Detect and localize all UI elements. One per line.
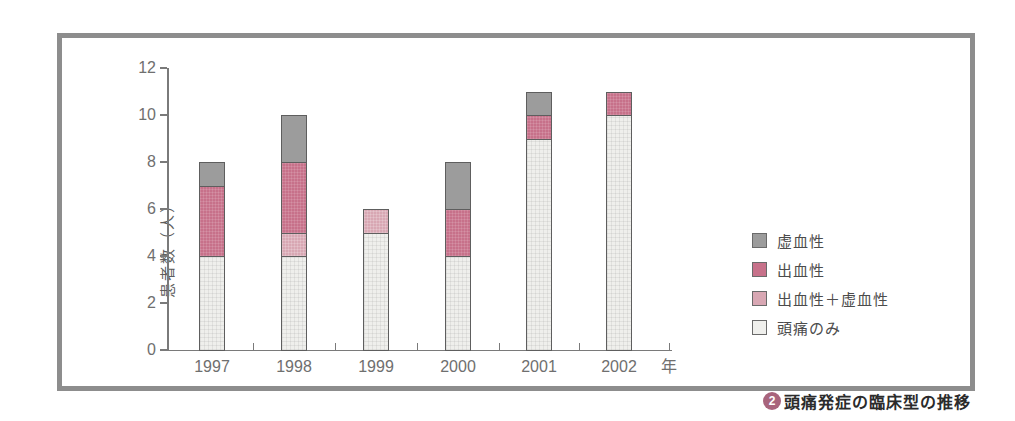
bar-1999-segment-hemo_plus_ische [363, 209, 389, 234]
legend-entry-hemorrhagic: 出血性 [752, 260, 889, 279]
figure-frame: 患者数（人） 虚血性出血性出血性＋虚血性頭痛のみ 2 頭痛発症の臨床型の推移 0… [57, 33, 975, 391]
caption-text: 頭痛発症の臨床型の推移 [784, 389, 971, 413]
bar-2000-segment-ischemic [445, 162, 471, 210]
x-axis-line [167, 350, 672, 352]
y-tick-label-10: 10 [112, 106, 156, 124]
y-tick-2 [160, 302, 167, 303]
y-tick-0 [160, 349, 167, 350]
x-minor-tick-end [669, 343, 670, 350]
y-tick-label-0: 0 [112, 341, 156, 359]
y-tick-label-8: 8 [112, 153, 156, 171]
y-tick-label-6: 6 [112, 200, 156, 218]
bar-2000-segment-headache_only [445, 256, 471, 351]
legend-label-hemorrhagic: 出血性 [777, 259, 825, 280]
caption-number-badge: 2 [763, 392, 781, 410]
legend-label-ischemic: 虚血性 [777, 230, 825, 251]
legend-label-headache_only: 頭痛のみ [777, 317, 841, 338]
bar-2001-segment-ischemic [526, 92, 552, 117]
y-axis-title: 患者数（人） [156, 196, 177, 298]
legend-swatch-hemorrhagic [752, 262, 767, 277]
bar-1999-segment-headache_only [363, 233, 389, 352]
bar-1997-segment-hemorrhagic [199, 186, 225, 258]
x-minor-tick-2 [417, 343, 418, 350]
y-tick-10 [160, 114, 167, 115]
figure-page: 患者数（人） 虚血性出血性出血性＋虚血性頭痛のみ 2 頭痛発症の臨床型の推移 0… [0, 0, 1015, 421]
y-tick-label-2: 2 [112, 294, 156, 312]
bar-2001-segment-hemorrhagic [526, 115, 552, 140]
x-axis-unit: 年 [661, 358, 677, 376]
legend-entry-ischemic: 虚血性 [752, 231, 889, 250]
x-minor-tick-1 [335, 343, 336, 350]
x-minor-tick-4 [579, 343, 580, 350]
bar-2001-segment-headache_only [526, 139, 552, 352]
y-tick-4 [160, 255, 167, 256]
x-tick-label-2002: 2002 [584, 358, 654, 376]
bar-1998-segment-headache_only [281, 256, 307, 351]
y-axis-line [167, 68, 169, 351]
chart-legend: 虚血性出血性出血性＋虚血性頭痛のみ [752, 231, 889, 347]
y-tick-label-4: 4 [112, 247, 156, 265]
x-tick-label-1999: 1999 [341, 358, 411, 376]
legend-entry-hemo_plus_ische: 出血性＋虚血性 [752, 289, 889, 308]
legend-entry-headache_only: 頭痛のみ [752, 318, 889, 337]
x-minor-tick-3 [499, 343, 500, 350]
y-tick-label-12: 12 [112, 59, 156, 77]
x-tick-label-1997: 1997 [177, 358, 247, 376]
bar-1998-segment-hemo_plus_ische [281, 233, 307, 258]
bar-1998-segment-hemorrhagic [281, 162, 307, 234]
x-tick-label-2001: 2001 [504, 358, 574, 376]
figure-caption: 2 頭痛発症の臨床型の推移 [763, 389, 971, 413]
legend-swatch-ischemic [752, 233, 767, 248]
bar-1997-segment-headache_only [199, 256, 225, 351]
x-tick-label-1998: 1998 [259, 358, 329, 376]
y-tick-6 [160, 208, 167, 209]
bar-1997-segment-ischemic [199, 162, 225, 187]
x-tick-label-2000: 2000 [423, 358, 493, 376]
y-tick-8 [160, 161, 167, 162]
x-minor-tick-0 [253, 343, 254, 350]
legend-label-hemo_plus_ische: 出血性＋虚血性 [777, 288, 889, 309]
legend-swatch-headache_only [752, 320, 767, 335]
bar-2000-segment-hemorrhagic [445, 209, 471, 257]
y-tick-12 [160, 67, 167, 68]
legend-swatch-hemo_plus_ische [752, 291, 767, 306]
bar-2002-segment-headache_only [606, 115, 632, 351]
bar-1998-segment-ischemic [281, 115, 307, 163]
bar-2002-segment-hemorrhagic [606, 92, 632, 117]
